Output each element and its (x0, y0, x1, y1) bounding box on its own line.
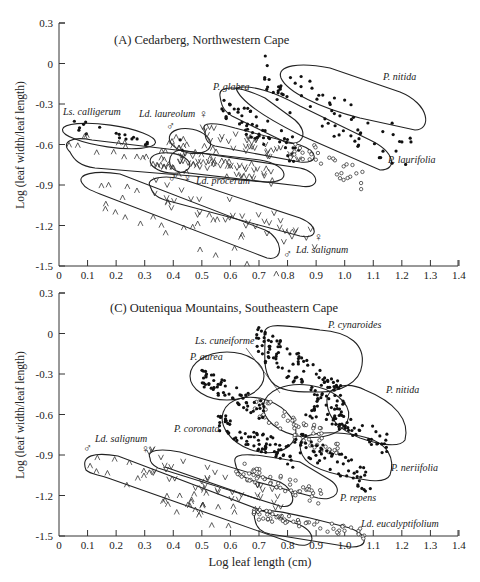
x-tick-label: 0.5 (195, 269, 209, 281)
x-tick-label: 0.2 (109, 539, 123, 551)
label-p-coronata: P. coronata (173, 423, 220, 434)
x-tick-label: 0.3 (138, 269, 152, 281)
x-tick-label: 0 (56, 539, 62, 551)
x-tick-label: 1.1 (366, 539, 380, 551)
x-tick-label: 0.8 (281, 539, 295, 551)
panel-a-envelopes (61, 65, 426, 258)
male-symbol: ♂ (166, 119, 175, 133)
label-ld-salignum: Ld. salignum (94, 433, 147, 444)
x-tick-label: 1.4 (452, 269, 466, 281)
x-tick-label: 1.4 (452, 539, 466, 551)
female-symbol: ♀ (141, 442, 150, 456)
x-tick-label: 0.1 (81, 269, 95, 281)
x-tick-label: 0.8 (281, 269, 295, 281)
panel-c-title: (C) Outeniqua Mountains, Southeastern Ca… (110, 301, 339, 315)
x-tick-label: 0.3 (138, 539, 152, 551)
label-ls-cuneiforme: Ls. cuneiforme (194, 335, 255, 346)
figure: 0.30-0.3-0.6-0.9-1.2-1.5 00.10.20.30.40.… (0, 0, 480, 582)
x-tick-label: 0.6 (224, 539, 238, 551)
label-p-neriifolia: P. neriifolia (390, 462, 438, 473)
panel-c: 0.30-0.3-0.6-0.9-1.2-1.5 00.10.20.30.40.… (14, 287, 466, 569)
male-symbol: ♂ (283, 247, 292, 261)
x-tick-label: 1.3 (424, 269, 438, 281)
x-tick-label: 1.1 (366, 269, 380, 281)
y-tick-label: -0.9 (36, 449, 54, 461)
label-p-nitida: P. nitida (382, 71, 416, 82)
x-tick-label: 0.4 (166, 539, 180, 551)
x-tick-label: 0.1 (81, 539, 95, 551)
label-p-laurifolia: P. laurifolia (387, 154, 436, 165)
label-ld-laureolum: Ld. laureolum (138, 108, 195, 119)
y-tick-label: -0.6 (36, 409, 54, 421)
x-tick-label: 0 (56, 269, 62, 281)
y-tick-label: 0 (48, 328, 54, 340)
y-tick-label: 0 (48, 58, 54, 70)
label-p-cynaroides: P. cynaroides (327, 319, 381, 330)
label-p-nitida: P. nitida (385, 384, 419, 395)
label-ld-eucalyptifolium: Ld. eucalyptifolium (360, 518, 439, 529)
x-tick-label: 0.7 (252, 539, 266, 551)
y-tick-label: 0.3 (39, 287, 53, 299)
y-tick-label: -0.9 (36, 179, 54, 191)
female-symbol: ♀ (314, 230, 323, 244)
female-symbol: ♀ (183, 171, 192, 185)
x-tick-label: 1.0 (338, 269, 352, 281)
x-tick-label: 0.5 (195, 539, 209, 551)
y-tick-label: -0.3 (36, 368, 54, 380)
male-symbol: ♂ (83, 441, 92, 455)
panel-a-title: (A) Cedarberg, Northwestern Cape (114, 33, 290, 47)
x-tick-label: 0.2 (109, 269, 123, 281)
panel-a: 0.30-0.3-0.6-0.9-1.2-1.5 00.10.20.30.40.… (14, 17, 466, 281)
y-tick-label: -0.3 (36, 98, 54, 110)
label-p-repens: P. repens (339, 492, 376, 503)
y-tick-label: -0.6 (36, 139, 54, 151)
label-p-aurea: P. aurea (189, 351, 223, 362)
y-tick-label: -1.5 (36, 530, 54, 542)
label-ls-calligerum: Ls. calligerum (62, 106, 121, 117)
y-tick-label: -1.2 (36, 220, 53, 232)
x-tick-label: 0.4 (166, 269, 180, 281)
label-ld-procerum: Ld. procerum (195, 175, 250, 186)
x-tick-label: 0.9 (309, 269, 323, 281)
male-symbol: ♂ (168, 171, 177, 185)
panel-c-axes: 0.30-0.3-0.6-0.9-1.2-1.5 00.10.20.30.40.… (36, 287, 467, 551)
panel-a-y-axis-label: Log (leaf width/leaf length) (14, 81, 27, 209)
y-tick-label: -1.2 (36, 490, 53, 502)
x-tick-label: 0.7 (252, 269, 266, 281)
x-tick-label: 1.3 (424, 539, 438, 551)
x-tick-label: 1.2 (395, 539, 409, 551)
x-tick-label: 1.2 (395, 269, 409, 281)
y-tick-label: -1.5 (36, 260, 54, 272)
panel-a-axes: 0.30-0.3-0.6-0.9-1.2-1.5 00.10.20.30.40.… (36, 17, 467, 281)
x-tick-label: 0.6 (224, 269, 238, 281)
label-ld-salignum: Ld. salignum (295, 244, 348, 255)
label-p-glabra: P. glabra (212, 81, 250, 92)
y-tick-label: 0.3 (39, 17, 53, 29)
panel-c-y-axis-label: Log (leaf width/leaf length) (14, 351, 27, 479)
female-symbol: ♀ (199, 107, 208, 121)
x-axis-label: Log leaf length (cm) (208, 555, 311, 569)
